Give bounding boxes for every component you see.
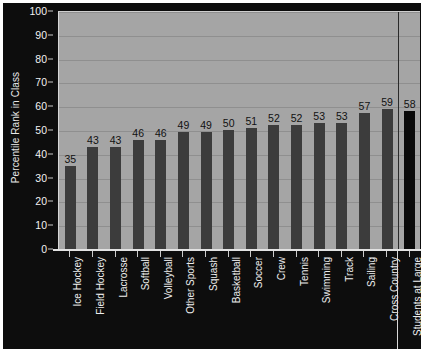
x-category-label: Soccer [254,257,264,288]
x-category-label: Students at Large [413,257,423,336]
x-category-label: Ice Hockey [73,257,83,306]
y-tick-mark [48,201,53,202]
x-category-label: Volleyball [164,257,174,299]
x-category-label: Field Hockey [96,257,106,315]
bar [359,113,370,249]
bar-value-label: 46 [155,127,167,139]
gridline [59,36,420,37]
bar-value-label: 46 [132,127,144,139]
y-tick-mark [48,34,53,35]
gridline [59,60,420,61]
y-tick-label: 0 [41,243,47,255]
y-tick-mark [48,106,53,107]
bar-value-label: 57 [359,100,371,112]
bar [87,147,98,249]
bar [404,111,415,249]
bar [382,109,393,249]
y-tick-label: 20 [35,195,47,207]
bar-value-label: 43 [110,134,122,146]
y-tick-label: 80 [35,53,47,65]
bar-value-label: 59 [381,96,393,108]
y-tick-label: 30 [35,172,47,184]
y-axis-tick-labels: 0102030405060708090100 [23,11,53,249]
x-category-label: Swimming [322,257,332,303]
y-tick-label: 70 [35,76,47,88]
bar-value-label: 43 [87,134,99,146]
x-category-label: Squash [209,257,219,291]
bar [246,128,257,249]
bar [133,140,144,249]
y-tick-mark [48,225,53,226]
gridline [59,12,420,13]
bar-value-label: 49 [178,119,190,131]
bar [178,132,189,249]
bar-value-label: 52 [291,112,303,124]
y-tick-mark [48,82,53,83]
y-axis-title: Percentile Rank in Class [8,3,24,251]
x-category-label: Cross Country [390,257,400,321]
bar-value-label: 58 [404,98,416,110]
x-category-label: Track [345,257,355,282]
bar [268,125,279,249]
x-category-label: Softball [141,257,151,290]
y-tick-mark [48,177,53,178]
bar-value-label: 53 [313,110,325,122]
y-tick-label: 40 [35,148,47,160]
x-category-label: Sailing [367,257,377,287]
bar-value-label: 53 [336,110,348,122]
right-panel-divider [397,251,398,349]
gridline [59,83,420,84]
x-category-label: Tennis [300,257,310,286]
bar-value-label: 51 [245,115,257,127]
bar-value-label: 35 [64,153,76,165]
y-tick-label: 50 [35,124,47,136]
y-tick-mark [48,11,53,12]
y-tick-mark [48,153,53,154]
x-category-label: Crew [277,257,287,280]
x-category-label: Lacrosse [119,257,129,298]
bar [291,125,302,249]
y-tick-label: 10 [35,219,47,231]
bar [336,123,347,249]
y-axis-title-text: Percentile Rank in Class [11,71,22,182]
bar-chart-figure: Percentile Rank in Class 010203040506070… [0,0,424,352]
bar-value-label: 52 [268,112,280,124]
group-separator-line [398,12,399,249]
bar [110,147,121,249]
bar [223,130,234,249]
y-tick-label: 100 [29,5,47,17]
y-tick-mark [48,130,53,131]
bar [65,166,76,249]
y-tick-label: 90 [35,29,47,41]
bar [155,140,166,249]
bar [201,132,212,249]
x-category-label: Basketball [232,257,242,303]
plot-area: 35434346464949505152525353575958 [58,11,420,249]
x-axis-category-labels: Ice HockeyField HockeyLacrosseSoftballVo… [58,257,420,349]
bar-value-label: 49 [200,119,212,131]
bar-value-label: 50 [223,117,235,129]
y-tick-mark [48,58,53,59]
bar [314,123,325,249]
x-category-label: Other Sports [186,257,196,314]
y-tick-label: 60 [35,100,47,112]
